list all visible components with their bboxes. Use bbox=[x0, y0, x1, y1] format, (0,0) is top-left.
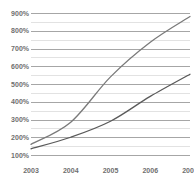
y-axis-tick-label: 700% bbox=[0, 45, 29, 52]
y-axis-tick-label: 500% bbox=[0, 81, 29, 88]
chart-top-caption bbox=[44, 0, 154, 7]
y-axis-tick-label: 100% bbox=[0, 152, 29, 159]
x-axis-line bbox=[31, 155, 190, 156]
y-axis-tick-label: 200% bbox=[0, 134, 29, 141]
series-line-upper-series bbox=[31, 17, 190, 145]
y-axis-tick-label: 400% bbox=[0, 98, 29, 105]
chart-container: 100%200%300%400%500%600%700%800%900% 200… bbox=[0, 0, 194, 188]
x-axis-tick-label: 2007 bbox=[175, 166, 194, 176]
x-axis-labels: 20032004200520062007 bbox=[0, 166, 194, 178]
x-axis-tick-label: 2006 bbox=[135, 166, 165, 176]
y-axis-tick-label: 900% bbox=[0, 10, 29, 17]
x-axis-tick-label: 2003 bbox=[16, 166, 46, 176]
x-axis-tick-label: 2005 bbox=[96, 166, 126, 176]
x-axis-tick-label: 2004 bbox=[56, 166, 86, 176]
y-axis-tick-label: 600% bbox=[0, 63, 29, 70]
y-axis-tick-label: 800% bbox=[0, 27, 29, 34]
y-axis-tick-label: 300% bbox=[0, 116, 29, 123]
series-lines bbox=[31, 13, 190, 155]
plot-area bbox=[31, 13, 190, 155]
y-axis-labels: 100%200%300%400%500%600%700%800%900% bbox=[0, 0, 29, 188]
series-line-lower-series bbox=[31, 74, 190, 149]
